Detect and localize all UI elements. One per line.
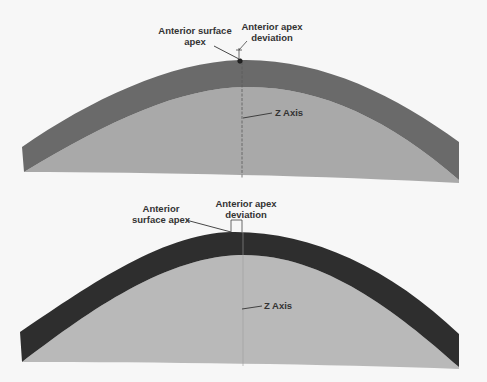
bottom-lens-cross-section	[20, 220, 459, 369]
bottom-deviation-label-line1: Anterior apex	[208, 198, 284, 209]
top-deviation-label-line1: Anterior apex	[232, 21, 312, 32]
top-apex-label: Anterior surface apex	[155, 25, 235, 47]
lens-diagrams	[0, 0, 487, 382]
bottom-deviation-label: Anterior apex deviation	[208, 198, 284, 220]
top-z-axis-label: Z Axis	[275, 107, 303, 118]
bottom-apex-label-line1: Anterior	[128, 203, 194, 214]
top-deviation-label: Anterior apex deviation	[232, 21, 312, 43]
top-deviation-label-line2: deviation	[232, 32, 312, 43]
top-apex-label-line1: Anterior surface	[155, 25, 235, 36]
top-apex-label-line2: apex	[155, 36, 235, 47]
top-lens-cross-section	[22, 41, 459, 183]
top-apex-marker	[238, 59, 243, 64]
top-apex-leader	[214, 46, 239, 59]
bottom-deviation-bracket	[231, 220, 242, 232]
bottom-z-axis-label: Z Axis	[264, 300, 292, 311]
bottom-deviation-label-line2: deviation	[208, 209, 284, 220]
bottom-apex-label-line2: surface apex	[128, 214, 194, 225]
bottom-apex-label: Anterior surface apex	[128, 203, 194, 225]
